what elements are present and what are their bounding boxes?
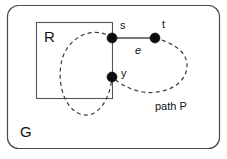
node-s-label: s — [120, 19, 126, 31]
outer-region-g-label: G — [20, 123, 32, 140]
node-t — [150, 33, 160, 43]
node-s — [107, 33, 117, 43]
inner-region-r-label: R — [44, 28, 55, 45]
path-p-label: path P — [155, 100, 187, 112]
node-t-label: t — [162, 18, 165, 30]
node-y — [107, 72, 117, 82]
edge-e-label: e — [135, 44, 141, 56]
diagram-canvas: R G s t y e path P — [0, 0, 227, 159]
graph-diagram-figure: R G s t y e path P — [0, 0, 227, 159]
node-y-label: y — [121, 67, 127, 79]
